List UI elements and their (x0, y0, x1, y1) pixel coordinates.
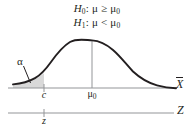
secondary-axis-label: Z (177, 103, 184, 118)
hypothesis-test-figure: H0: μ ≥ μ0 H1: μ < μ0 α X Z c μ0 z (0, 0, 194, 139)
distribution-plot (0, 0, 194, 139)
z-value-label: z (32, 115, 56, 126)
alpha-label: α (17, 55, 23, 67)
alpha-leader-line (24, 66, 31, 83)
primary-axis-label: X (176, 77, 183, 92)
mean-label: μ0 (80, 88, 104, 101)
critical-value-label: c (32, 89, 56, 100)
